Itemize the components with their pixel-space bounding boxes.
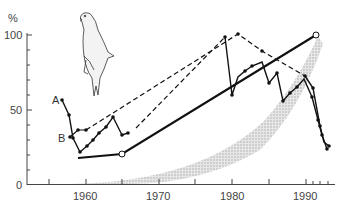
- falcon-illustration: [80, 13, 114, 96]
- y-unit-label: %: [8, 12, 18, 24]
- series-a-early: [62, 100, 128, 152]
- trend-marker: [313, 32, 319, 38]
- trend-line: [78, 35, 316, 158]
- y-axis: [27, 33, 32, 185]
- series-a-label: A: [52, 94, 60, 106]
- y-tick-100: 100: [4, 29, 22, 41]
- series-b-label: B: [58, 132, 65, 144]
- x-tick-1980: 1980: [220, 190, 244, 202]
- x-axis: [27, 179, 335, 185]
- series-a-dashed: [136, 37, 225, 128]
- x-tick-1970: 1970: [146, 190, 170, 202]
- y-tick-0: 0: [16, 179, 22, 191]
- series-b-late: [305, 76, 329, 146]
- x-tick-1960: 1960: [73, 190, 97, 202]
- x-tick-1990: 1990: [293, 190, 317, 202]
- chart: % 100 50 0 1960 1970 1980 1990 A B: [0, 0, 341, 206]
- y-tick-50: 50: [10, 104, 22, 116]
- trend-marker: [119, 151, 125, 157]
